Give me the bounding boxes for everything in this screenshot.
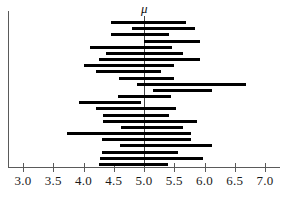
confidence-interval-bar xyxy=(84,64,175,67)
confidence-interval-bar xyxy=(106,52,183,55)
x-tick xyxy=(205,163,206,172)
confidence-interval-bar xyxy=(102,151,179,154)
confidence-interval-bar xyxy=(79,101,141,104)
x-tick xyxy=(174,163,175,172)
confidence-interval-figure: 3.03.54.04.55.05.56.06.57.0 μ xyxy=(0,0,284,199)
confidence-interval-bar xyxy=(99,58,200,61)
confidence-interval-bar xyxy=(121,126,183,129)
confidence-interval-bar xyxy=(111,21,187,24)
confidence-interval-bar xyxy=(118,95,171,98)
confidence-interval-bar xyxy=(119,77,175,80)
x-tick xyxy=(23,163,24,172)
confidence-interval-bar xyxy=(111,33,170,36)
x-tick xyxy=(235,163,236,172)
confidence-interval-bar xyxy=(96,70,161,73)
x-tick xyxy=(53,163,54,172)
confidence-interval-bar xyxy=(120,144,212,147)
confidence-interval-bar xyxy=(100,157,203,160)
confidence-interval-bar xyxy=(103,120,197,123)
confidence-interval-bar xyxy=(144,40,200,43)
plot-area: 3.03.54.04.55.05.56.06.57.0 μ xyxy=(0,0,284,199)
confidence-interval-bar xyxy=(153,89,212,92)
confidence-interval-bar xyxy=(102,138,192,141)
mu-label: μ xyxy=(141,2,148,15)
confidence-interval-bar xyxy=(137,83,246,86)
confidence-interval-bar xyxy=(99,163,169,166)
confidence-interval-bar xyxy=(96,107,176,110)
confidence-interval-bar xyxy=(103,114,170,117)
x-tick xyxy=(265,163,266,172)
confidence-interval-bar xyxy=(90,46,173,49)
confidence-interval-bar xyxy=(132,27,196,30)
y-axis-line xyxy=(8,11,9,168)
confidence-interval-bar xyxy=(67,132,192,135)
x-tick-label: 7.0 xyxy=(245,173,284,189)
x-tick xyxy=(84,163,85,172)
